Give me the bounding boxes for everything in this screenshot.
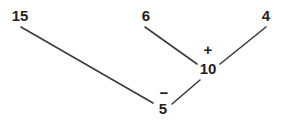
edge-15-to-5 [21,27,153,103]
diagram-nodes: 15 6 4 10 5 [12,7,271,117]
plus-operator-icon: + [204,41,213,58]
node-label-4: 4 [262,7,271,24]
math-decomposition-diagram: 15 6 4 10 5 + − [0,0,286,125]
edge-5-to-10 [172,80,200,104]
node-label-10: 10 [200,60,217,77]
edge-6-to-10 [145,27,197,64]
node-label-5: 5 [159,100,167,117]
diagram-canvas: 15 6 4 10 5 + − [0,0,286,125]
diagram-edges [21,27,266,104]
edge-4-to-10 [220,27,266,64]
node-label-15: 15 [12,7,29,24]
node-label-6: 6 [142,7,150,24]
minus-operator-icon: − [160,84,169,101]
